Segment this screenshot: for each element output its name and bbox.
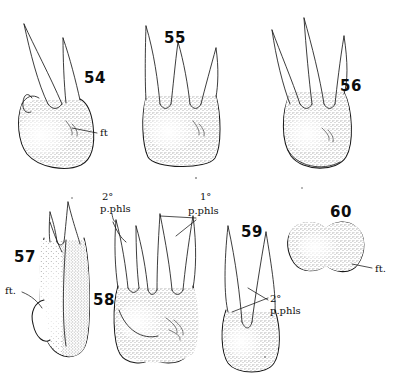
figure-54-label-ft: ft: [100, 127, 108, 138]
ink-speck: [264, 356, 265, 357]
figure-58-label-secondary: p.phls: [100, 203, 131, 214]
figure-59-number: 59: [241, 223, 263, 241]
figure-55-number: 55: [164, 29, 186, 47]
figure-56-number: 56: [340, 77, 362, 95]
plate-canvas: ft 54 55: [0, 0, 395, 379]
figure-59-label-secondary-sup: 2°: [270, 293, 281, 304]
ink-speck: [71, 197, 72, 198]
figure-57-label-ft: ft.: [5, 285, 16, 296]
figure-60-label-ft: ft.: [375, 263, 386, 274]
figure-54-number: 54: [84, 69, 106, 87]
ink-speck: [195, 177, 197, 179]
ink-speck: [301, 187, 302, 188]
figure-60-number: 60: [330, 203, 352, 221]
figure-58-label-primary: p.phls: [188, 205, 219, 216]
figure-58-number: 58: [93, 291, 115, 309]
figure-58-label-secondary-sup: 2°: [102, 191, 113, 202]
figure-58-label-primary-sup: 1°: [200, 191, 211, 202]
figure-59-label-secondary: p.phls: [270, 305, 301, 316]
figure-57-number: 57: [14, 248, 36, 266]
illustration-plate: ft 54 55: [0, 0, 395, 379]
